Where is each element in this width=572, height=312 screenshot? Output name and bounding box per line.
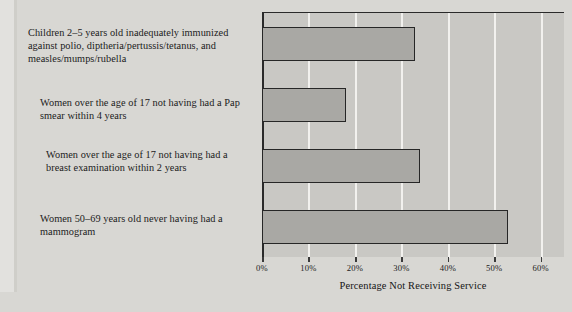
scan-left-margin [0, 0, 14, 312]
tick-0% [262, 257, 264, 262]
tick-20% [355, 257, 357, 262]
gridline-60% [541, 13, 543, 258]
tick-label-20%: 20% [347, 263, 363, 273]
label-line: mammogram [40, 226, 95, 237]
plot-area [262, 12, 564, 257]
tick-50% [494, 257, 496, 262]
label-line: breast examination within 2 years [46, 162, 187, 173]
label-line: measles/mumps/rubella [28, 53, 126, 64]
label-line: Women over the age of 17 not having had … [40, 97, 240, 108]
tick-40% [448, 257, 450, 262]
tick-label-10%: 10% [300, 263, 316, 273]
category-label-children-immunization: Children 2–5 years old inadequately immu… [28, 26, 256, 66]
tick-label-30%: 30% [393, 263, 409, 273]
tick-60% [541, 257, 543, 262]
label-line: smear within 4 years [40, 110, 127, 121]
category-label-breast-exam: Women over the age of 17 not having had … [46, 148, 258, 174]
label-line: Women over the age of 17 not having had … [46, 149, 228, 160]
chart-plot-wrapper: 0%10%20%30%40%50%60% Percentage Not Rece… [262, 12, 564, 257]
chart-page: Children 2–5 years old inadequately immu… [0, 0, 572, 312]
x-axis-label: Percentage Not Receiving Service [262, 280, 564, 291]
label-line: against polio, diptheria/pertussis/tetan… [28, 40, 216, 51]
category-label-mammogram: Women 50–69 years old never having had a… [40, 212, 256, 238]
tick-10% [308, 257, 310, 262]
bar-children-immunization [262, 27, 415, 61]
tick-30% [401, 257, 403, 262]
category-label-column: Children 2–5 years old inadequately immu… [18, 8, 258, 258]
tick-label-40%: 40% [440, 263, 456, 273]
tick-label-60%: 60% [533, 263, 549, 273]
category-label-pap-smear: Women over the age of 17 not having had … [40, 96, 258, 122]
bar-pap-smear [262, 88, 346, 122]
label-line: Children 2–5 years old inadequately immu… [28, 27, 228, 38]
label-line: Women 50–69 years old never having had a [40, 213, 223, 224]
tick-label-50%: 50% [486, 263, 502, 273]
page-bottom-margin [0, 292, 572, 312]
bar-mammogram [262, 210, 508, 244]
bar-breast-exam [262, 149, 420, 183]
tick-label-0%: 0% [256, 263, 268, 273]
scan-edge-shadow [14, 0, 17, 312]
